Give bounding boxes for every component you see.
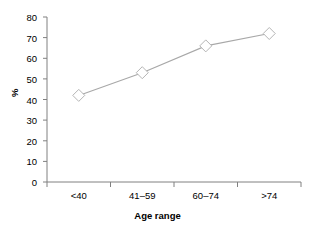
x-axis-ticks	[47, 182, 301, 187]
y-tick-label-10: 10	[13, 157, 37, 167]
x-tick-label-60-74: 60–74	[175, 191, 237, 201]
x-axis-title: Age range	[0, 211, 315, 221]
y-tick-label-20: 20	[13, 137, 37, 147]
y-tick-label-60: 60	[13, 54, 37, 64]
series-line	[79, 34, 269, 96]
y-axis-title: %	[10, 83, 20, 103]
y-tick-label-70: 70	[13, 34, 37, 44]
y-tick-label-80: 80	[13, 13, 37, 23]
x-tick-label-under-40: <40	[48, 191, 110, 201]
data-point-marker	[200, 40, 212, 52]
y-tick-label-0: 0	[13, 178, 37, 188]
chart-container: 80 70 60 50 40 30 20 10 0 <40 41–59 60–7…	[0, 0, 315, 230]
data-point-marker	[136, 67, 148, 79]
x-tick-label-41-59: 41–59	[111, 191, 173, 201]
y-axis-ticks	[43, 17, 47, 182]
data-point-marker	[73, 89, 85, 101]
data-point-marker	[263, 28, 275, 40]
x-tick-label-over-74: >74	[238, 191, 300, 201]
y-tick-label-30: 30	[13, 116, 37, 126]
